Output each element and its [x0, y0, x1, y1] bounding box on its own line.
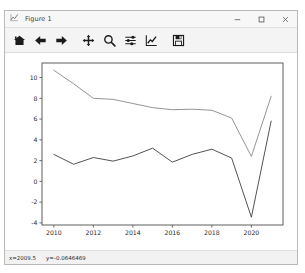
sliders-icon: [124, 34, 137, 47]
save-button[interactable]: [168, 30, 189, 51]
configure-subplots-button[interactable]: [120, 30, 141, 51]
status-bar: x=2009.5 y=-0.0646469: [5, 250, 297, 264]
figure-canvas[interactable]: -4-20246810 201020122014201620182020: [5, 53, 297, 250]
plot-svg: -4-20246810 201020122014201620182020: [5, 53, 297, 250]
close-button[interactable]: [273, 11, 297, 27]
maximize-button[interactable]: [249, 11, 273, 27]
upper-line: [54, 70, 271, 156]
x-tick-label: 2018: [204, 229, 220, 236]
move-cross-icon: [82, 34, 95, 47]
navigation-toolbar: [5, 28, 297, 53]
figure-icon: [10, 13, 22, 25]
y-tick-label: 0: [34, 178, 38, 185]
y-tick-label: -2: [31, 198, 37, 205]
y-tick-label: 6: [34, 115, 38, 122]
x-tick-label: 2012: [85, 229, 101, 236]
edit-axis-button[interactable]: [141, 30, 162, 51]
y-tick-label: 4: [34, 136, 38, 143]
minimize-button[interactable]: [225, 11, 249, 27]
x-coordinate-readout: x=2009.5: [9, 255, 36, 261]
x-tick-label: 2016: [165, 229, 181, 236]
pan-button[interactable]: [78, 30, 99, 51]
y-tick-label: -4: [31, 219, 37, 226]
magnifier-icon: [103, 34, 116, 47]
title-bar: Figure 1: [5, 11, 297, 28]
forward-button[interactable]: [51, 30, 72, 51]
floppy-disk-icon: [172, 34, 185, 47]
y-coordinate-readout: y=-0.0646469: [46, 255, 86, 261]
x-tick-label: 2010: [46, 229, 62, 236]
home-button[interactable]: [9, 30, 30, 51]
arrow-left-icon: [34, 34, 47, 47]
y-tick-label: 2: [34, 157, 38, 164]
x-tick-label: 2020: [244, 229, 260, 236]
data-lines: [54, 70, 271, 217]
window-controls: [225, 11, 297, 27]
window-title: Figure 1: [25, 15, 52, 23]
lower-line: [54, 121, 271, 217]
x-tick-label: 2014: [125, 229, 141, 236]
zoom-button[interactable]: [99, 30, 120, 51]
figure-window: Figure 1: [4, 10, 298, 265]
arrow-right-icon: [55, 34, 68, 47]
back-button[interactable]: [30, 30, 51, 51]
home-icon: [13, 34, 26, 47]
y-tick-label: 8: [34, 95, 38, 102]
y-tick-labels: -4-20246810: [30, 74, 38, 226]
x-tick-labels: 201020122014201620182020: [46, 229, 259, 236]
chart-line-icon: [145, 34, 158, 47]
y-tick-label: 10: [30, 74, 38, 81]
